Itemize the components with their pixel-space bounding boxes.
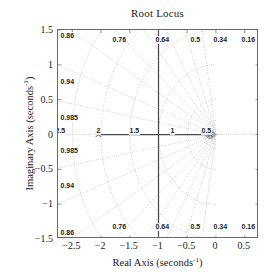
grid-label-left-0: 0.94 [60, 78, 75, 86]
grid-label-top-1: 0.76 [112, 36, 127, 44]
grid-label-top-4: 0.34 [213, 36, 228, 44]
grid-label-bottom-4: 0.34 [213, 223, 228, 231]
x-axis-label: Real Axis (seconds-1) [57, 257, 258, 268]
grid-label-bottom-5: 0.16 [241, 223, 256, 231]
x-tick-label-6: 0.5 [237, 240, 250, 251]
x-axis-label-close: ) [199, 257, 203, 268]
root-locus-figure: Root Locus 0.860.760.640.50.340.160.940.… [0, 0, 276, 277]
x-tick-label-5: 0 [212, 240, 217, 251]
plot-canvas [58, 30, 258, 238]
grid-label-left-1: 0.985 [60, 114, 79, 122]
x-axis-label-text: Real Axis (seconds [113, 257, 194, 268]
grid-label-bottom-0: 0.86 [60, 229, 75, 237]
plot-area: 0.860.760.640.50.340.160.940.9850.9850.9… [57, 29, 258, 238]
x-tick-label-3: −1 [152, 240, 163, 251]
y-axis-label-exponent: -1 [22, 80, 30, 86]
y-axis-label: Imaginary Axis (seconds-1) [24, 34, 35, 234]
grid-label-freq-2: 1.5 [129, 127, 140, 135]
grid-label-top-3: 0.5 [190, 36, 201, 44]
grid-label-top-2: 0.64 [155, 36, 170, 44]
y-axis-label-text: Imaginary Axis (seconds [24, 86, 35, 190]
grid-label-bottom-2: 0.64 [155, 223, 170, 231]
grid-label-bottom-1: 0.76 [112, 223, 127, 231]
grid-label-freq-0: 2.5 [57, 127, 66, 135]
grid-label-freq-4: 0.5 [201, 127, 212, 135]
y-tick-label-6: −1.5 [20, 233, 53, 244]
grid-label-bottom-3: 0.5 [190, 223, 201, 231]
y-axis-label-close: ) [24, 77, 35, 81]
x-tick-label-0: −2.5 [62, 240, 80, 251]
grid-label-freq-3: 1 [170, 127, 175, 135]
grid-label-left-lower-0: 0.985 [60, 147, 79, 155]
grid-label-top-0: 0.86 [60, 32, 75, 40]
x-tick-label-4: −0.5 [177, 240, 195, 251]
x-tick-label-1: −2 [95, 240, 106, 251]
chart-title: Root Locus [57, 7, 258, 19]
grid-label-freq-1: 2 [96, 127, 101, 135]
grid-label-top-5: 0.16 [241, 36, 256, 44]
x-tick-label-2: −1.5 [120, 240, 138, 251]
locus-layer [98, 30, 210, 238]
grid-label-left-lower-1: 0.94 [60, 182, 75, 190]
